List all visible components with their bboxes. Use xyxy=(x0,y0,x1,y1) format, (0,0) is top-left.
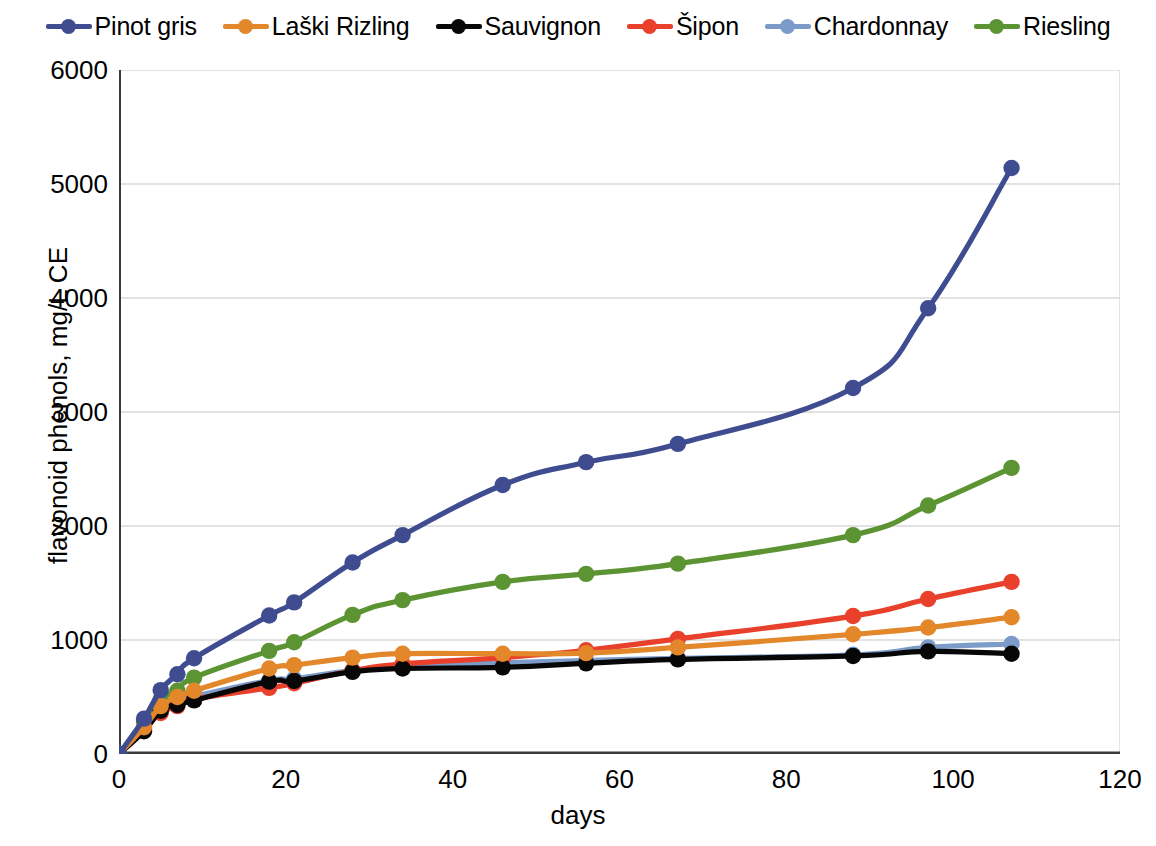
legend-item-label: Chardonnay xyxy=(811,14,948,39)
legend-item-label: Riesling xyxy=(1020,14,1110,39)
legend-item-chardonnay[interactable]: Chardonnay xyxy=(765,14,948,39)
plot-area xyxy=(119,70,1120,754)
y-tick-label: 6000 xyxy=(16,55,108,86)
y-tick-label: 2000 xyxy=(16,511,108,542)
x-tick-label: 80 xyxy=(741,764,831,795)
y-tick-label: 5000 xyxy=(16,169,108,200)
legend-marker-icon xyxy=(436,16,482,36)
chart-legend: Pinot grisLaški RizlingSauvignonŠiponCha… xyxy=(0,0,1156,52)
legend-item-sauvignon[interactable]: Sauvignon xyxy=(436,14,601,39)
x-tick-label: 60 xyxy=(575,764,665,795)
series-riesling xyxy=(119,460,1020,754)
x-tick-label: 20 xyxy=(241,764,331,795)
legend-marker-icon xyxy=(765,16,811,36)
legend-item-label: Šipon xyxy=(673,14,739,39)
x-tick-label: 0 xyxy=(74,764,164,795)
y-axis-tick-labels: 6000500040003000200010000 xyxy=(0,0,108,846)
legend-item-šipon[interactable]: Šipon xyxy=(627,14,739,39)
legend-marker-icon xyxy=(223,16,269,36)
chart-figure: Pinot grisLaški RizlingSauvignonŠiponCha… xyxy=(0,0,1156,846)
legend-item-label: Laški Rizling xyxy=(269,14,410,39)
x-tick-label: 120 xyxy=(1075,764,1156,795)
x-axis-label: days xyxy=(0,800,1156,831)
y-tick-label: 3000 xyxy=(16,397,108,428)
legend-item-laški-rizling[interactable]: Laški Rizling xyxy=(223,14,410,39)
x-tick-label: 100 xyxy=(908,764,998,795)
legend-marker-icon xyxy=(627,16,673,36)
x-tick-label: 40 xyxy=(408,764,498,795)
legend-item-riesling[interactable]: Riesling xyxy=(974,14,1110,39)
legend-item-label: Sauvignon xyxy=(482,14,601,39)
series-canvas xyxy=(119,70,1120,754)
y-tick-label: 1000 xyxy=(16,625,108,656)
legend-marker-icon xyxy=(974,16,1020,36)
y-tick-label: 4000 xyxy=(16,283,108,314)
